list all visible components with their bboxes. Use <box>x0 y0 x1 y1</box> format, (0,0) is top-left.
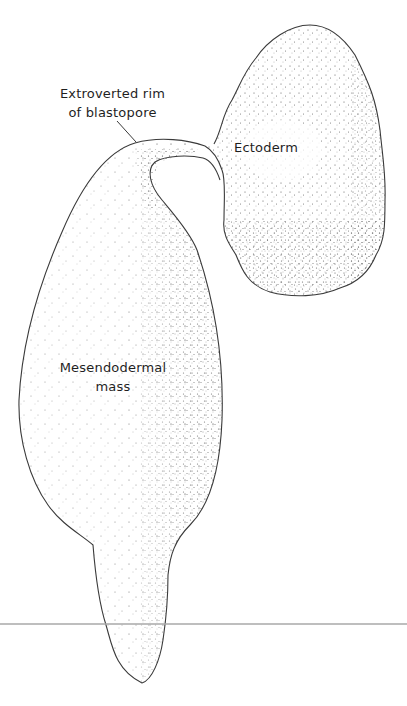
label-rim-line1: Extroverted rim <box>50 84 175 103</box>
label-mes-line1: Mesendodermal <box>48 358 178 377</box>
label-rim-line2: of blastopore <box>50 103 175 122</box>
label-mes-line2: mass <box>48 377 178 396</box>
ectoderm-mass <box>200 25 400 310</box>
rim-leader-line <box>117 121 136 142</box>
label-ectoderm: Ectoderm <box>230 138 302 157</box>
label-mesendodermal-mass: Mesendodermal mass <box>48 358 178 396</box>
mesendodermal-mass <box>0 120 240 700</box>
label-extroverted-rim: Extroverted rim of blastopore <box>50 84 175 122</box>
